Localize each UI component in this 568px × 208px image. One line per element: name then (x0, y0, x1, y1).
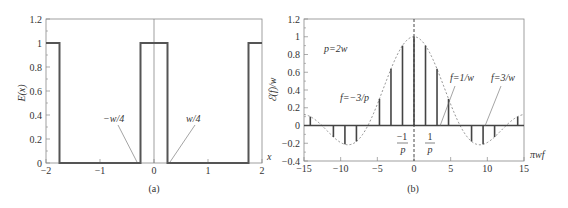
plot-b-frac-neg-num: −1 (397, 131, 408, 142)
plot-b: −0.4−0.200.20.40.60.811.2 −15−10−5051015… (267, 14, 546, 196)
x-tick-label: 10 (482, 163, 492, 174)
plot-a-y-axis: 00.20.40.60.811.2 (30, 14, 51, 169)
plot-b-annot-p: p=2w (323, 43, 348, 54)
plot-b-annot-f-neg3p: f=−3/p (340, 92, 369, 103)
plot-b-leader-f3w (485, 86, 501, 126)
plot-b-frac-num: 1 (428, 131, 433, 142)
y-tick-label: 1.2 (30, 14, 43, 25)
plot-a-xlabel: x (266, 151, 272, 162)
x-tick-label: 0 (412, 163, 417, 174)
y-tick-label: −0.2 (282, 138, 300, 149)
plot-a-x-axis: −2−1012 (41, 159, 265, 176)
x-tick-label: 2 (260, 165, 265, 176)
plot-a-annot-pos-w4: w/4 (186, 113, 200, 124)
x-tick-label: 1 (206, 165, 211, 176)
plot-b-x-axis: −15−10−5051015 (296, 157, 529, 174)
plot-b-ylabel: ℰ(f)/w (267, 77, 279, 102)
x-tick-label: 5 (448, 163, 453, 174)
plot-b-annot-f1w: f=1/w (450, 72, 474, 83)
y-tick-label: 0.4 (288, 85, 301, 96)
y-tick-label: 0.6 (30, 86, 43, 97)
y-tick-label: 1 (37, 38, 42, 49)
plot-b-annot-f3w: f=3/w (491, 72, 515, 83)
y-tick-label: 1 (295, 31, 300, 42)
plot-b-frac-neg-den: p (400, 144, 406, 155)
y-tick-label: 1.2 (288, 14, 301, 25)
plot-b-annot-neg-inv-p: −1 p (397, 131, 408, 155)
plot-a-leader-pos (170, 125, 195, 162)
x-tick-label: −10 (333, 163, 349, 174)
x-tick-label: −1 (95, 165, 106, 176)
plot-b-annot-inv-p: 1 p (425, 131, 435, 155)
y-tick-label: 0.8 (30, 62, 43, 73)
y-tick-label: 0.4 (30, 110, 43, 121)
plot-a-ylabel: E(x) (16, 84, 28, 103)
y-tick-label: 0 (295, 120, 300, 131)
x-tick-label: −5 (372, 163, 383, 174)
plot-b-y-axis: −0.4−0.200.20.40.60.811.2 (282, 14, 308, 167)
plot-a-caption: (a) (148, 183, 159, 195)
plot-a-leader-neg (118, 125, 137, 162)
y-tick-label: 0.2 (288, 102, 301, 113)
x-tick-label: 0 (152, 165, 157, 176)
y-tick-label: 0.2 (30, 134, 43, 145)
plot-b-xlabel: πwf (530, 149, 546, 160)
figure: 00.20.40.60.811.2 −2−1012 −w/4 w/4 x E(x… (0, 0, 568, 208)
x-tick-label: 15 (519, 163, 529, 174)
y-tick-label: 0.6 (288, 67, 301, 78)
plot-a-annot-neg-w4: −w/4 (103, 113, 124, 124)
plot-b-leader-f1w (440, 86, 455, 126)
plot-a: 00.20.40.60.811.2 −2−1012 −w/4 w/4 x E(x… (16, 14, 272, 196)
x-tick-label: −15 (296, 163, 312, 174)
plot-b-frac-den: p (427, 144, 433, 155)
x-tick-label: −2 (41, 165, 52, 176)
plot-b-caption: (b) (407, 183, 419, 195)
y-tick-label: 0.8 (288, 49, 301, 60)
